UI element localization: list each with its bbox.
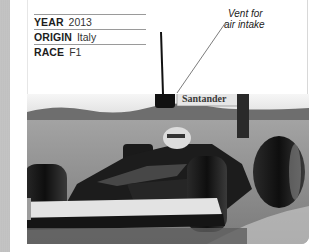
- callout-leader-line: [177, 22, 226, 93]
- antenna: [161, 32, 163, 94]
- annotation-overlay: [0, 0, 316, 252]
